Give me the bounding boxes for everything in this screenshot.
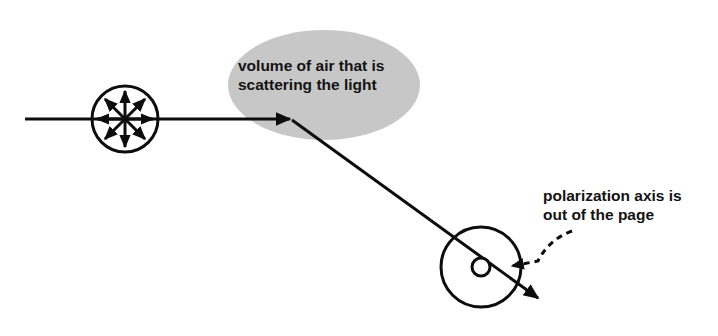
scattering-diagram: volume of air that is scattering the lig…	[0, 0, 718, 336]
volume-label-line2: scattering the light	[238, 76, 377, 93]
out-of-page-dot-icon	[472, 258, 490, 276]
polarization-arrow-group	[97, 91, 153, 147]
polarization-label-line2: out of the page	[543, 206, 654, 223]
polarization-label-line1: polarization axis is	[543, 187, 682, 204]
volume-label-line1: volume of air that is	[238, 57, 384, 74]
diagram-canvas: volume of air that is scattering the lig…	[0, 0, 718, 336]
scattered-ray	[292, 120, 538, 298]
